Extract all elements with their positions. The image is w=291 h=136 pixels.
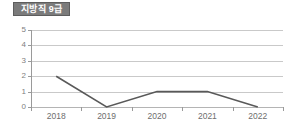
chart-screenshot: 지방직 9급 012345 20182019202020212022: [0, 0, 291, 136]
chart-title-label: 지방직 9급: [21, 5, 62, 14]
chart-title-badge: 지방직 9급: [13, 2, 70, 16]
series-polyline-local-grade9: [56, 76, 258, 107]
chart-area: 012345 20182019202020212022: [0, 22, 291, 136]
series-line-chart: [0, 22, 291, 136]
